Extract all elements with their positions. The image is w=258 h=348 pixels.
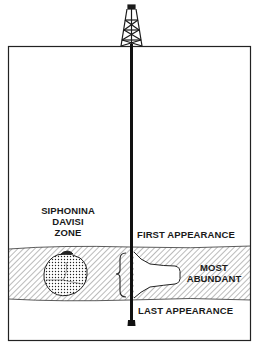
zone-label-line-2: DAVISI: [33, 216, 103, 227]
most-abundant-line-1: MOST: [184, 262, 244, 273]
drill-bit: [128, 320, 136, 326]
diagram-canvas: [0, 0, 258, 348]
most-abundant-line-2: ABUNDANT: [184, 273, 244, 284]
biostratigraphy-diagram: SIPHONINA DAVISI ZONE FIRST APPEARANCE M…: [0, 0, 258, 348]
zone-label: SIPHONINA DAVISI ZONE: [33, 205, 103, 238]
first-appearance-label: FIRST APPEARANCE: [137, 229, 235, 240]
last-appearance-label: LAST APPEARANCE: [138, 305, 233, 316]
drilling-rig-icon: [121, 5, 142, 46]
most-abundant-label: MOST ABUNDANT: [184, 262, 244, 284]
zone-label-line-1: SIPHONINA: [33, 205, 103, 216]
zone-label-line-3: ZONE: [33, 227, 103, 238]
